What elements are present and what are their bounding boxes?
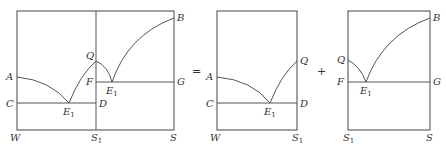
curve-A-E1: [17, 77, 69, 103]
curve-Q-E1: [348, 60, 366, 82]
label-G: G: [433, 76, 441, 87]
label-E1-right: E1: [105, 85, 118, 98]
label-Q: Q: [86, 50, 94, 61]
label-S1: S1: [91, 132, 102, 145]
label-D: D: [98, 98, 107, 109]
label-W: W: [210, 132, 221, 143]
curve-E1-B: [366, 18, 430, 82]
label-A: A: [5, 71, 13, 82]
left-subsystem-diagram: A C D Q E1 W S1: [205, 11, 308, 145]
label-S: S: [170, 132, 177, 143]
label-C: C: [6, 98, 14, 109]
label-F: F: [85, 76, 94, 87]
curve-E1-Q: [270, 61, 297, 103]
phase-diagram-figure: A C D F G Q B E1 E1 W S1 S = A C D Q E1 …: [0, 0, 446, 153]
right-subsystem-diagram: Q F G B E1 S1 S: [336, 11, 441, 145]
label-Q: Q: [300, 55, 308, 66]
label-S1: S1: [343, 132, 354, 145]
combined-diagram: A C D F G Q B E1 E1 W S1 S: [5, 11, 185, 145]
label-S1: S1: [292, 132, 303, 145]
curve-A-E1: [217, 77, 270, 103]
label-E1: E1: [263, 106, 276, 119]
curve-E1-B: [112, 18, 174, 82]
label-F: F: [336, 76, 345, 87]
label-B: B: [176, 12, 184, 23]
curve-Q-E1: [96, 61, 112, 82]
label-C: C: [206, 98, 214, 109]
label-A: A: [205, 71, 213, 82]
label-E1: E1: [359, 85, 372, 98]
equals-sign: =: [192, 65, 201, 78]
plus-sign: +: [317, 65, 326, 78]
label-B: B: [432, 12, 440, 23]
label-S: S: [426, 132, 433, 143]
label-Q: Q: [337, 54, 345, 65]
label-E1-left: E1: [62, 106, 75, 119]
label-D: D: [299, 98, 308, 109]
label-W: W: [10, 132, 21, 143]
label-G: G: [177, 76, 185, 87]
left-subsystem-frame: [217, 11, 297, 130]
